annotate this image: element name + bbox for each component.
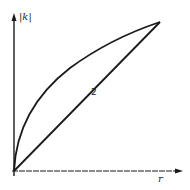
curve-2-line: [14, 22, 160, 171]
curve-2-label: 2: [91, 88, 97, 97]
x-axis-arrow-icon: [175, 169, 183, 174]
x-axis-label: r: [158, 174, 163, 184]
y-axis-label: |k|: [19, 12, 32, 22]
y-axis-arrow-icon: [12, 13, 17, 21]
figure: |k| r 2: [0, 0, 190, 190]
